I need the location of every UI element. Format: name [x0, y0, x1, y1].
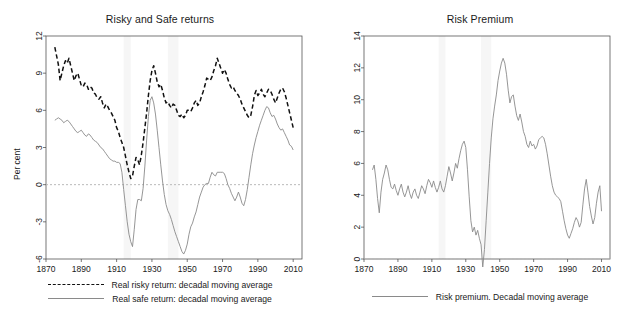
y-tick-label: 12 [34, 31, 44, 41]
figure-risky-safe-risk-premium: Risky and Safe returns Per cent -6-30369… [0, 0, 640, 323]
y-tick-label: 14 [352, 31, 362, 41]
y-tick-label: -6 [34, 255, 44, 263]
y-tick-label: 9 [34, 71, 44, 76]
legend-right: Risk premium. Decadal moving average [320, 290, 640, 304]
x-tick-label: 1930 [456, 264, 475, 274]
y-tick-label: 0 [34, 182, 44, 187]
panel-risk-premium: Risk Premium Per cent 024681012141870189… [320, 0, 640, 323]
x-tick-label: 1890 [388, 264, 407, 274]
x-tick-label: 1950 [490, 264, 509, 274]
legend-label: Real safe return: decadal moving average [112, 294, 272, 304]
x-tick-label: 1930 [142, 264, 161, 274]
plot-area-left: -6-3036912187018901910193019501970199020… [0, 0, 320, 323]
legend-item: Real safe return: decadal moving average [0, 292, 320, 306]
x-tick-label: 1970 [213, 264, 232, 274]
x-tick-label: 1990 [248, 264, 267, 274]
legend-label: Real risky return: decadal moving averag… [112, 280, 273, 290]
x-tick-label: 1870 [355, 264, 374, 274]
legend-left: Real risky return: decadal moving averag… [0, 278, 320, 306]
y-tick-label: 12 [352, 63, 362, 73]
x-tick-label: 2010 [284, 264, 303, 274]
legend-solid-key-icon [48, 298, 104, 300]
x-tick-label: 1870 [37, 264, 56, 274]
y-tick-label: 3 [34, 145, 44, 150]
y-tick-label: 6 [352, 161, 362, 166]
legend-solid-key-icon [372, 296, 428, 298]
x-tick-label: 1910 [107, 264, 126, 274]
shaded-band-0 [439, 36, 446, 259]
y-tick-label: 10 [352, 95, 362, 105]
plot-area-right: 0246810121418701890191019301950197019902… [320, 0, 640, 323]
x-tick-label: 1990 [558, 264, 577, 274]
legend-item: Risk premium. Decadal moving average [320, 290, 640, 304]
y-tick-label: 6 [34, 108, 44, 113]
legend-label: Risk premium. Decadal moving average [436, 292, 588, 302]
y-tick-label: 4 [352, 193, 362, 198]
x-tick-label: 1890 [72, 264, 91, 274]
y-tick-label: 8 [352, 129, 362, 134]
y-tick-label: -3 [34, 218, 44, 226]
panel-risky-and-safe-returns: Risky and Safe returns Per cent -6-30369… [0, 0, 320, 323]
legend-dashed-key-icon [48, 284, 104, 286]
y-tick-label: 2 [352, 225, 362, 230]
legend-item: Real risky return: decadal moving averag… [0, 278, 320, 292]
y-tick-label: 0 [352, 256, 362, 261]
x-tick-label: 1950 [178, 264, 197, 274]
x-tick-label: 2010 [592, 264, 611, 274]
x-tick-label: 1970 [524, 264, 543, 274]
shaded-band-0 [124, 36, 131, 259]
x-tick-label: 1910 [422, 264, 441, 274]
